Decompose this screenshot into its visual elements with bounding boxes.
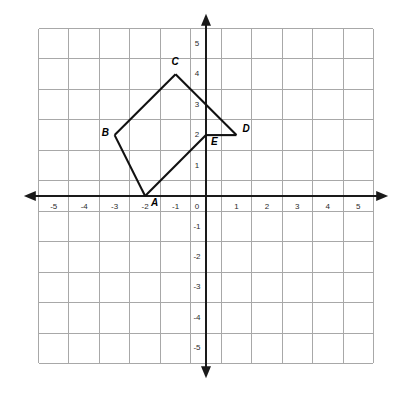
y-tick-label: 5: [195, 39, 200, 48]
y-tick-label: -4: [193, 313, 201, 322]
coordinate-grid-svg: -5-4-3-2-101234554321-1-2-3-4-5 ABCDE: [0, 0, 395, 396]
y-tick-label: 2: [195, 130, 200, 139]
y-axis-arrow-down: [201, 366, 211, 378]
vertex-labels: ABCDE: [102, 56, 250, 208]
x-tick-label: -4: [81, 202, 89, 211]
y-tick-label: -2: [193, 252, 201, 261]
axes: [24, 14, 388, 378]
y-tick-label: -5: [193, 343, 201, 352]
x-tick-label: 5: [356, 202, 361, 211]
x-tick-label: -2: [142, 202, 150, 211]
x-tick-label: -5: [50, 202, 58, 211]
polygon-edge-bc: [115, 74, 176, 135]
y-tick-label: 3: [195, 100, 200, 109]
vertex-label-d: D: [242, 123, 249, 134]
y-tick-label: 4: [195, 69, 200, 78]
x-tick-label: 1: [234, 202, 239, 211]
x-tick-label: -3: [111, 202, 119, 211]
coordinate-plane-figure: -5-4-3-2-101234554321-1-2-3-4-5 ABCDE: [0, 0, 395, 396]
x-tick-label: 0: [195, 202, 200, 211]
x-axis-arrow-right: [376, 191, 388, 201]
vertex-label-a: A: [150, 197, 158, 208]
y-tick-label: 1: [195, 161, 200, 170]
x-tick-label: 3: [295, 202, 300, 211]
y-tick-label: -3: [193, 282, 201, 291]
y-tick-label: -1: [193, 222, 201, 231]
vertex-label-e: E: [211, 136, 218, 147]
polygon-shape: [115, 74, 237, 196]
x-tick-label: 4: [326, 202, 331, 211]
vertex-label-b: B: [102, 127, 109, 138]
x-axis-arrow-left: [24, 191, 36, 201]
x-tick-label: 2: [265, 202, 270, 211]
x-tick-label: -1: [172, 202, 180, 211]
y-axis-arrow-up: [201, 14, 211, 26]
vertex-label-c: C: [172, 56, 180, 67]
